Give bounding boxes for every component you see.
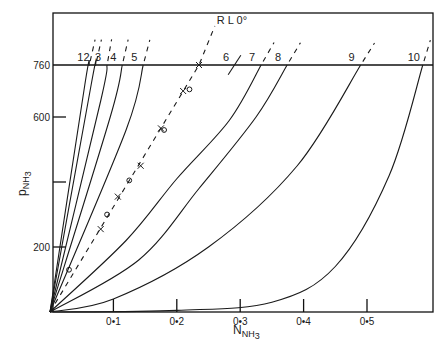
curve-8-extension — [289, 43, 300, 62]
curve-label-2: 2 — [84, 51, 90, 63]
curve-4 — [50, 65, 122, 312]
x-tick-label: 0•5 — [360, 316, 375, 327]
chart: 2006007600•10•20•30•40•5 12345678910R L … — [0, 0, 444, 351]
curve-label-7: 7 — [249, 51, 255, 63]
curve-7-extension — [263, 42, 274, 61]
curve-label-9: 9 — [349, 51, 355, 63]
y-tick-label: 600 — [33, 112, 50, 123]
x-tick-label: 0•1 — [106, 316, 121, 327]
curve-9 — [50, 65, 361, 312]
curve-4-extension — [123, 40, 128, 61]
curve-label-1: 1 — [77, 51, 83, 63]
x-tick-label: 0•4 — [296, 316, 311, 327]
y-tick-label: 760 — [33, 60, 50, 71]
y-tick-label: 200 — [33, 242, 50, 253]
x-tick-label: 0•2 — [169, 316, 184, 327]
curves — [50, 26, 430, 312]
curve-10 — [50, 65, 423, 312]
rl-dashed-line — [50, 26, 215, 312]
y-axis-label: pNH3 — [15, 171, 33, 196]
curve-9-extension — [363, 43, 375, 62]
curve-label-4: 4 — [110, 51, 116, 63]
curve-1 — [50, 60, 89, 312]
curve-label-3: 3 — [95, 51, 101, 63]
curve-10-extension — [424, 40, 430, 61]
x-marker — [180, 88, 186, 94]
curve-label-6: 6 — [223, 51, 229, 63]
plot-frame: 2006007600•10•20•30•40•5 — [33, 13, 433, 327]
curve-label-10: 10 — [408, 51, 420, 63]
curve-5-extension — [144, 40, 150, 61]
curve-5 — [50, 65, 143, 312]
rl-label: R L 0° — [217, 14, 247, 26]
o-marker — [187, 87, 192, 92]
x-marker — [98, 226, 104, 232]
curve-label-5: 5 — [131, 51, 137, 63]
curve-label-8: 8 — [275, 51, 281, 63]
curve-3 — [50, 65, 107, 312]
labels: 12345678910R L 0° — [77, 14, 420, 63]
